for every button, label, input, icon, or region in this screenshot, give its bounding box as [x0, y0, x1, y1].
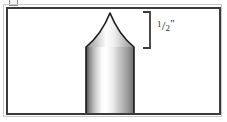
figure-root: 1/2"	[0, 0, 227, 122]
bullet-drawing	[0, 0, 227, 122]
inch-mark: "	[170, 17, 175, 29]
bullet-body-shank	[86, 47, 134, 115]
dimension-bracket	[143, 12, 150, 48]
dimension-label: 1/2"	[157, 18, 175, 33]
dimension-fraction: 1/2	[157, 18, 170, 33]
bullet-nose-ogive	[86, 13, 134, 47]
